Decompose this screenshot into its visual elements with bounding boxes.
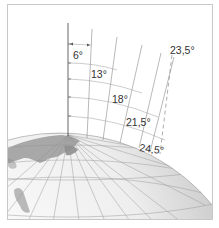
angle-label-13: 13° (91, 68, 107, 80)
globe-diagram: 6° 13° 18° 21,5° 24,5° 23,5° (0, 0, 219, 228)
angle-label-18: 18° (112, 93, 128, 105)
globe (0, 124, 219, 228)
angle-label-23-5: 23,5° (170, 44, 195, 56)
angle-label-21-5: 21,5° (126, 116, 151, 128)
angle-label-6: 6° (73, 49, 83, 61)
ray-lines (87, 29, 174, 152)
